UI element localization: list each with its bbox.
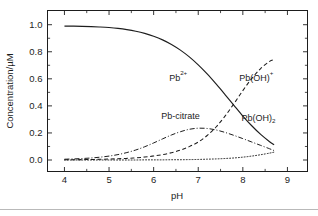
y-tick-label: 0.0	[29, 154, 42, 165]
label-pb2plus: Pb2+	[169, 68, 187, 83]
concentration-vs-ph-plot: 4567890.00.20.40.60.81.0 Pb2+Pb(OH)+Pb-c…	[0, 0, 318, 216]
y-axis-title: Concentration/µM	[4, 53, 15, 128]
x-tick-label: 4	[62, 174, 67, 185]
x-tick-label: 8	[240, 174, 245, 185]
series-annotations: Pb2+Pb(OH)+Pb-citratePb(OH)2	[161, 68, 276, 124]
y-tick-label: 1.0	[29, 19, 42, 30]
x-tick-label: 5	[106, 174, 111, 185]
label-pb-citrate: Pb-citrate	[161, 111, 200, 121]
x-tick-label: 7	[196, 174, 201, 185]
curve-pb-oh-2	[64, 152, 274, 160]
series-curves	[64, 26, 274, 160]
footer-divider	[0, 209, 318, 210]
y-tick-label: 0.8	[29, 46, 42, 57]
x-axis-title: pH	[171, 190, 183, 201]
curve-pb-citrate	[64, 128, 274, 159]
curve-pb2	[64, 26, 274, 145]
plot-frame	[48, 11, 308, 172]
x-tick-label: 6	[151, 174, 156, 185]
chart-figure: 4567890.00.20.40.60.81.0 Pb2+Pb(OH)+Pb-c…	[0, 0, 318, 216]
axis-ticks	[48, 11, 308, 172]
y-tick-label: 0.2	[29, 127, 42, 138]
y-tick-label: 0.6	[29, 73, 42, 84]
label-pboh2: Pb(OH)2	[241, 113, 276, 125]
x-tick-label: 9	[285, 174, 290, 185]
y-tick-label: 0.4	[29, 100, 42, 111]
label-pboh-plus: Pb(OH)+	[239, 68, 274, 83]
